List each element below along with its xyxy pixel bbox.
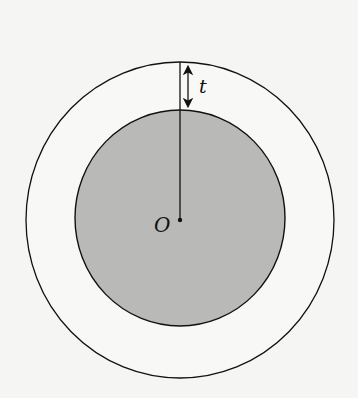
center-point — [178, 218, 182, 222]
thickness-label: t — [199, 75, 207, 97]
center-label: O — [154, 213, 170, 237]
diagram-canvas: t O — [0, 0, 358, 398]
concentric-circles-diagram: t O — [0, 0, 358, 398]
